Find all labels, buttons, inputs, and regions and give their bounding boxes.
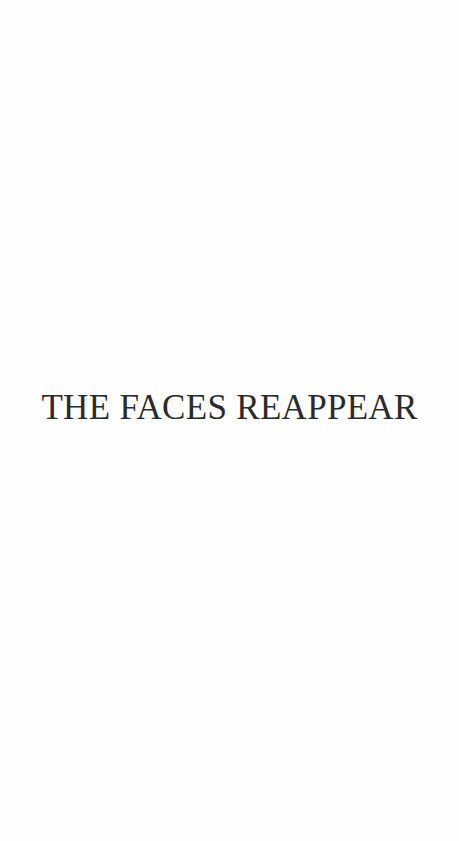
- book-page: THE FACES REAPPEAR: [0, 0, 459, 841]
- chapter-title: THE FACES REAPPEAR: [0, 388, 459, 428]
